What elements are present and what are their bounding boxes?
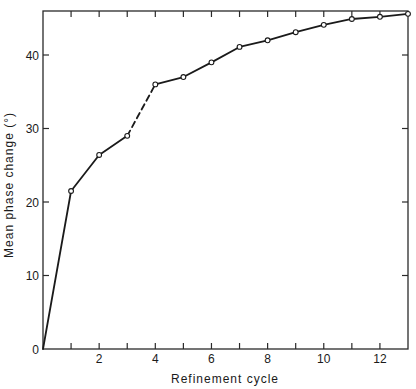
data-series bbox=[43, 11, 410, 349]
line-segment bbox=[268, 32, 296, 40]
line-segment bbox=[240, 40, 268, 47]
line-segment bbox=[155, 77, 183, 84]
data-point-marker bbox=[69, 189, 74, 194]
data-point-marker bbox=[293, 30, 298, 35]
data-point-marker bbox=[237, 45, 242, 50]
data-point-marker bbox=[125, 133, 130, 138]
dashed-line-segment bbox=[127, 84, 155, 135]
data-point-marker bbox=[349, 17, 354, 22]
line-segment bbox=[99, 136, 127, 155]
x-tick-label: 2 bbox=[96, 352, 103, 366]
x-tick-label: 8 bbox=[264, 352, 271, 366]
data-point-marker bbox=[265, 38, 270, 43]
line-segment bbox=[296, 25, 324, 32]
y-tick-label: 0 bbox=[32, 343, 39, 357]
line-segment bbox=[211, 47, 239, 62]
data-point-marker bbox=[153, 82, 158, 87]
data-point-marker bbox=[321, 22, 326, 27]
line-chart: 24681012010203040 Refinement cycle Mean … bbox=[0, 0, 416, 389]
x-tick-label: 12 bbox=[373, 352, 387, 366]
x-tick-label: 4 bbox=[152, 352, 159, 366]
y-axis-label: Mean phase change (°) bbox=[2, 112, 16, 258]
data-point-marker bbox=[97, 153, 102, 158]
x-tick-label: 10 bbox=[317, 352, 331, 366]
y-tick-label: 40 bbox=[26, 49, 40, 63]
data-point-marker bbox=[181, 75, 186, 80]
axis-tick-labels: 24681012010203040 bbox=[26, 49, 387, 367]
y-tick-label: 10 bbox=[26, 269, 40, 283]
x-tick-label: 6 bbox=[208, 352, 215, 366]
y-tick-label: 30 bbox=[26, 122, 40, 136]
line-segment bbox=[324, 19, 352, 25]
line-segment bbox=[352, 17, 380, 19]
line-segment bbox=[71, 155, 99, 191]
x-axis-label: Refinement cycle bbox=[171, 372, 279, 386]
data-point-marker bbox=[378, 14, 383, 19]
axis-ticks bbox=[43, 11, 408, 349]
line-segment bbox=[43, 191, 71, 349]
line-segment bbox=[183, 62, 211, 77]
y-tick-label: 20 bbox=[26, 196, 40, 210]
line-segment bbox=[380, 14, 408, 17]
plot-frame bbox=[43, 11, 408, 349]
data-point-marker bbox=[406, 11, 411, 16]
data-point-marker bbox=[209, 60, 214, 65]
